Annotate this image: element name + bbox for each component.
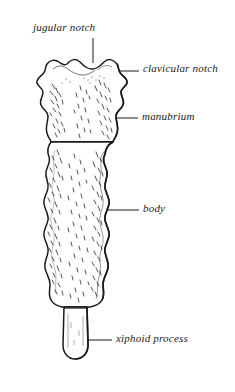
xiphoid-process-outline (63, 307, 88, 359)
label-clavicular-notch: clavicular notch (143, 63, 218, 74)
label-xiphoid-process: xiphoid process (116, 333, 188, 344)
label-jugular-notch: jugular notch (33, 22, 95, 33)
label-body: body (143, 203, 165, 214)
manubrium-outline (37, 60, 127, 142)
label-manubrium: manubrium (142, 111, 195, 122)
